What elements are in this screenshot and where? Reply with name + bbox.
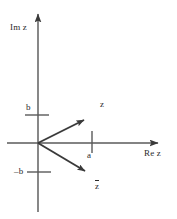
tick-label-b: b bbox=[26, 102, 31, 112]
tick-label-a: a bbox=[87, 150, 91, 160]
complex-plane-figure: Im z Re z b –b a z z bbox=[0, 0, 177, 219]
vector-label-z: z bbox=[100, 99, 104, 109]
vector-z bbox=[38, 120, 84, 143]
vector-label-z-conjugate: z bbox=[95, 180, 99, 191]
tick-label-minus-b: –b bbox=[14, 166, 23, 176]
real-axis-label: Re z bbox=[144, 148, 161, 158]
vector-label-z-conjugate-text: z bbox=[95, 180, 99, 191]
vector-z-conjugate bbox=[38, 143, 85, 171]
imaginary-axis-label: Im z bbox=[10, 22, 27, 32]
